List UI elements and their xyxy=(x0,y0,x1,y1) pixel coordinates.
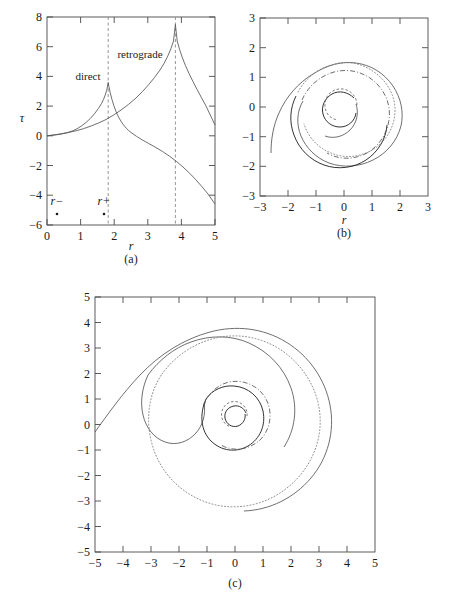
panel-a-markers: r− r+ xyxy=(51,194,111,215)
y-tick: −2 xyxy=(242,159,255,173)
x-tick: 0 xyxy=(341,200,347,214)
y-tick: 1 xyxy=(249,70,255,84)
panel-b-y-tick-labels: 3 2 1 0 −1 −2 −3 xyxy=(242,11,255,203)
x-tick: −1 xyxy=(201,556,214,570)
y-tick: 1 xyxy=(84,392,90,406)
panel-c-caption: (c) xyxy=(228,576,241,590)
x-tick: 3 xyxy=(145,229,151,243)
y-tick: −2 xyxy=(77,469,90,483)
y-tick: 0 xyxy=(84,418,90,432)
panel-a: 8 6 4 2 0 −2 −4 −6 0 1 2 3 4 5 τ r (a) xyxy=(0,0,230,268)
panel-a-caption: (a) xyxy=(124,252,137,266)
panel-c-x-tick-labels: −5 −4 −3 −2 −1 0 1 2 3 4 5 xyxy=(89,556,378,570)
y-tick: 2 xyxy=(249,41,255,55)
x-tick: −3 xyxy=(145,556,158,570)
panel-a-y-axis-label: τ xyxy=(20,111,25,125)
panel-c-frame xyxy=(95,297,375,552)
panel-a-svg: 8 6 4 2 0 −2 −4 −6 0 1 2 3 4 5 τ r (a) xyxy=(0,0,230,268)
panel-b-svg: 3 2 1 0 −1 −2 −3 −3 −2 −1 0 1 2 3 r (b) xyxy=(228,0,454,268)
y-tick: 0 xyxy=(36,129,42,143)
panel-c-svg: 5 4 3 2 1 0 −1 −2 −3 −4 −5 −5 −4 −3 −2 −… xyxy=(60,282,405,611)
x-tick: 2 xyxy=(397,200,403,214)
orbit-dotted xyxy=(149,336,321,507)
panel-b: 3 2 1 0 −1 −2 −3 −3 −2 −1 0 1 2 3 r (b) xyxy=(228,0,454,268)
panel-b-orbits xyxy=(271,62,402,167)
orbit-inner-solid xyxy=(202,386,264,450)
panel-b-frame xyxy=(260,18,428,196)
y-tick: 4 xyxy=(36,69,42,83)
orbit-core-solid xyxy=(322,92,356,127)
panel-b-caption: (b) xyxy=(337,226,351,240)
orbit-solid-inner xyxy=(291,96,387,168)
panel-c: 5 4 3 2 1 0 −1 −2 −3 −4 −5 −5 −4 −3 −2 −… xyxy=(60,282,405,611)
x-tick: 4 xyxy=(178,229,184,243)
panel-c-orbits xyxy=(95,328,332,511)
panel-c-y-tick-labels: 5 4 3 2 1 0 −1 −2 −3 −4 −5 xyxy=(77,290,90,559)
marker-dot-r-plus xyxy=(103,213,106,216)
panel-b-x-tick-labels: −3 −2 −1 0 1 2 3 xyxy=(254,200,431,214)
marker-label-r-plus: r+ xyxy=(98,194,111,208)
y-tick: −2 xyxy=(29,159,42,173)
panel-c-x-ticks xyxy=(123,297,347,552)
orbit-core-solid xyxy=(225,406,246,427)
x-tick: 4 xyxy=(344,556,350,570)
x-tick: 0 xyxy=(232,556,238,570)
panel-a-x-axis-label: r xyxy=(129,239,134,253)
panel-b-x-ticks xyxy=(288,18,400,196)
x-tick: 1 xyxy=(78,229,84,243)
x-tick: 5 xyxy=(212,229,218,243)
x-tick: 3 xyxy=(316,556,322,570)
y-tick: −4 xyxy=(29,188,42,202)
y-tick: 6 xyxy=(36,40,42,54)
y-tick: 3 xyxy=(249,11,255,25)
annotation-retrograde: retrograde xyxy=(117,48,162,60)
x-tick: −3 xyxy=(254,200,267,214)
y-tick: 5 xyxy=(84,290,90,304)
y-tick: 4 xyxy=(84,316,90,330)
marker-label-r-minus: r− xyxy=(51,194,64,208)
curve-retrograde xyxy=(47,25,215,136)
x-tick: 2 xyxy=(111,229,117,243)
panel-b-y-ticks xyxy=(260,18,428,196)
y-tick: −4 xyxy=(77,520,90,534)
y-tick: 8 xyxy=(36,10,42,24)
orbit-dotted xyxy=(298,63,395,157)
y-tick: 3 xyxy=(84,341,90,355)
orbit-solid-outer xyxy=(95,328,332,511)
y-tick: 2 xyxy=(84,367,90,381)
curve-direct xyxy=(47,83,215,205)
x-tick: −2 xyxy=(282,200,295,214)
y-tick: −3 xyxy=(77,494,90,508)
y-tick: −6 xyxy=(29,218,42,232)
orbit-dashdot xyxy=(302,70,389,158)
orbit-core-dashed xyxy=(325,89,357,120)
x-tick: 1 xyxy=(260,556,266,570)
x-tick: 1 xyxy=(369,200,375,214)
x-tick: 0 xyxy=(44,229,50,243)
x-tick: 2 xyxy=(288,556,294,570)
x-tick: 3 xyxy=(425,200,431,214)
orbit-solid-hook xyxy=(142,375,205,444)
x-tick: −5 xyxy=(89,556,102,570)
marker-dot-r-minus xyxy=(56,213,59,216)
y-tick: 2 xyxy=(36,99,42,113)
annotation-direct: direct xyxy=(75,70,100,82)
x-tick: −4 xyxy=(117,556,130,570)
y-tick: −1 xyxy=(242,130,255,144)
x-tick: 5 xyxy=(372,556,378,570)
panel-b-x-axis-label: r xyxy=(342,213,347,227)
x-tick: −1 xyxy=(310,200,323,214)
x-tick: −2 xyxy=(173,556,186,570)
y-tick: 0 xyxy=(249,100,255,114)
y-tick: −1 xyxy=(77,443,90,457)
orbit-solid-arm2 xyxy=(148,337,295,447)
panel-a-y-tick-labels: 8 6 4 2 0 −2 −4 −6 xyxy=(29,10,42,232)
